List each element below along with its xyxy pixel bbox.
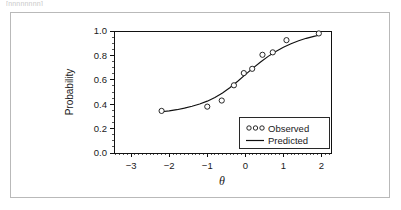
legend-observed-marker-icon: [260, 126, 264, 130]
y-axis-tick-label: 0.8: [94, 50, 107, 61]
x-axis-title: θ: [219, 174, 225, 188]
x-axis-tick-label: −1: [202, 160, 213, 171]
y-axis-tick-label: 0.0: [94, 147, 107, 158]
observed-data-point: [270, 50, 275, 55]
x-axis-tick-labels: −3−2−1012: [126, 160, 324, 171]
clipped-header-text: [nnnnnnnn]: [6, 0, 84, 6]
y-axis-tick-label: 1.0: [94, 25, 107, 36]
probability-vs-theta-chart: 0.00.20.40.60.81.0 Probability −3−2−1012…: [11, 13, 391, 199]
observed-data-point: [316, 31, 321, 36]
figure-frame: 0.00.20.40.60.81.0 Probability −3−2−1012…: [10, 12, 390, 198]
y-axis-minor-ticks: [112, 31, 114, 153]
legend-observed-marker-icon: [253, 126, 257, 130]
observed-data-point: [231, 83, 236, 88]
x-axis-tick-label: 2: [319, 160, 324, 171]
y-axis-tick-label: 0.4: [94, 99, 107, 110]
observed-data-point: [241, 70, 246, 75]
observed-data-point: [205, 104, 210, 109]
legend-label-observed: Observed: [268, 123, 309, 134]
x-axis: −3−2−1012 θ: [116, 153, 329, 188]
observed-data-point: [260, 52, 265, 57]
legend-observed-marker-icon: [247, 126, 251, 130]
observed-data-point: [250, 66, 255, 71]
y-axis: 0.00.20.40.60.81.0 Probability: [64, 25, 114, 158]
x-axis-tick-label: 1: [281, 160, 286, 171]
x-axis-tick-label: −2: [164, 160, 175, 171]
observed-data-point: [219, 98, 224, 103]
y-axis-tick-label: 0.2: [94, 123, 107, 134]
y-axis-title: Probability: [64, 69, 75, 116]
chart-area: 0.00.20.40.60.81.0 Probability −3−2−1012…: [11, 13, 391, 199]
observed-points-group: [159, 31, 321, 114]
predicted-curve-line: [162, 35, 319, 111]
observed-data-point: [159, 108, 164, 113]
legend-label-predicted: Predicted: [268, 135, 308, 146]
y-axis-tick-labels: 0.00.20.40.60.81.0: [94, 25, 107, 158]
observed-data-point: [284, 38, 289, 43]
x-axis-tick-label: −3: [126, 160, 137, 171]
chart-legend: Observed Predicted: [239, 117, 329, 148]
x-axis-tick-label: 0: [243, 160, 248, 171]
y-axis-tick-label: 0.6: [94, 74, 107, 85]
